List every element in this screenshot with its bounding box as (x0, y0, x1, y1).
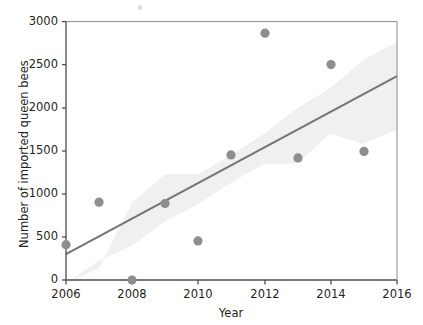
y-axis-label: Number of imported queen bees (19, 60, 31, 248)
scatter-plot-figure: 0 500 1000 1500 2000 2500 3000 2006 2008… (0, 0, 423, 325)
data-point (94, 198, 103, 207)
data-point (61, 240, 70, 249)
data-point (127, 275, 136, 284)
scan-artifact-speck (138, 5, 142, 10)
x-tick-label-2012: 2012 (250, 289, 279, 301)
confidence-band (66, 42, 397, 284)
data-point (326, 60, 335, 69)
data-point (260, 29, 269, 38)
data-point (226, 150, 235, 159)
y-tick-label-0: 0 (0, 274, 58, 286)
regression-line (66, 76, 397, 254)
y-tick-label-3000: 3000 (0, 16, 58, 28)
data-point (160, 199, 169, 208)
x-tick-label-2014: 2014 (316, 289, 345, 301)
x-tick-label-2016: 2016 (382, 289, 411, 301)
x-axis-label: Year (219, 308, 243, 320)
x-tick-label-2006: 2006 (51, 289, 80, 301)
data-point (193, 236, 202, 245)
data-point (359, 147, 368, 156)
x-tick-marks (66, 280, 397, 285)
plot-canvas (0, 0, 423, 325)
scatter-points (61, 29, 368, 285)
data-point (293, 153, 302, 162)
x-tick-label-2010: 2010 (183, 289, 212, 301)
x-tick-label-2008: 2008 (117, 289, 146, 301)
